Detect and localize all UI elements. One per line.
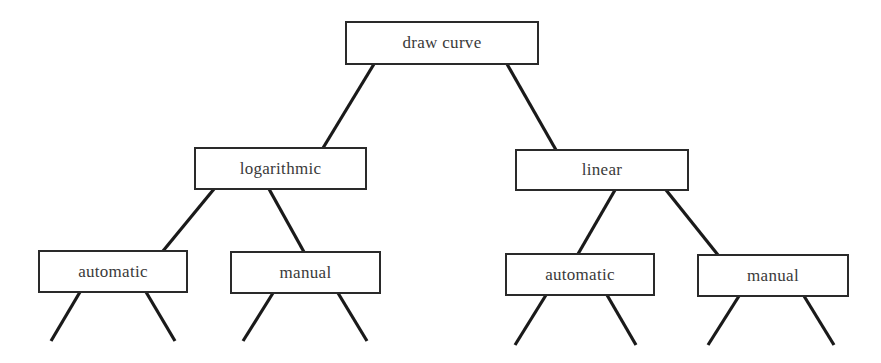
edge-draw-curve-to-logarithmic xyxy=(323,64,374,148)
edge-logarithmic-to-automatic xyxy=(163,189,214,251)
open-branch-line xyxy=(515,295,546,345)
edge-logarithmic-to-manual xyxy=(269,189,304,252)
node-draw-curve: draw curve xyxy=(345,21,539,65)
open-branch-line xyxy=(607,295,636,345)
edge-linear-to-manual xyxy=(666,190,718,255)
edge-draw-curve-to-linear xyxy=(507,64,556,150)
tree-diagram: draw curve logarithmic linear automatic … xyxy=(0,0,881,363)
node-logarithmic-manual: manual xyxy=(230,251,381,294)
open-branch-line xyxy=(146,292,175,341)
open-branch-line xyxy=(804,296,834,345)
node-linear-manual: manual xyxy=(697,254,849,297)
node-linear: linear xyxy=(515,149,689,191)
open-branch-line xyxy=(708,296,739,345)
node-linear-automatic: automatic xyxy=(505,253,655,296)
open-branch-line xyxy=(338,293,367,341)
open-branch-line xyxy=(51,292,80,341)
node-logarithmic: logarithmic xyxy=(194,147,367,190)
node-logarithmic-automatic: automatic xyxy=(38,250,188,293)
open-branch-line xyxy=(243,293,273,341)
edge-linear-to-automatic xyxy=(578,190,615,254)
